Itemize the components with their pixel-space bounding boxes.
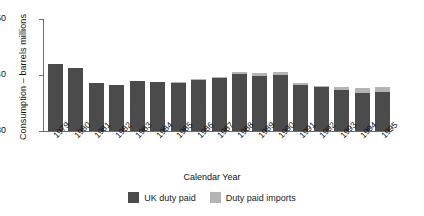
y-axis-title: Consumption – barrels millions — [18, 2, 28, 152]
bar-segment-uk-1980 — [68, 68, 83, 131]
legend-item-uk-duty-paid: UK duty paid — [128, 192, 196, 203]
chart-legend: UK duty paid Duty paid imports — [0, 192, 424, 203]
y-tick-label-30: 30 — [0, 125, 6, 135]
legend-item-duty-paid-imports: Duty paid imports — [210, 192, 296, 203]
bar-chart: Consumption – barrels millions 304050 19… — [0, 0, 424, 216]
y-tick-label-50: 50 — [0, 13, 6, 23]
legend-label-duty-paid-imports: Duty paid imports — [226, 193, 296, 203]
y-tick-label-40: 40 — [0, 69, 6, 79]
plot-area — [44, 19, 392, 131]
y-tick-30 — [39, 131, 44, 132]
legend-swatch-icon-duty-paid-imports — [210, 192, 221, 203]
x-axis-title: Calendar Year — [0, 172, 424, 182]
legend-label-uk-duty-paid: UK duty paid — [144, 193, 196, 203]
bar-segment-uk-1979 — [48, 64, 63, 131]
legend-swatch-icon-uk-duty-paid — [128, 192, 139, 203]
bar-series-container — [44, 19, 392, 131]
x-axis-tick-labels: 1979198019811982198319841985198619871988… — [44, 133, 392, 173]
bar-group-1980 — [68, 68, 83, 131]
bar-group-1979 — [48, 64, 63, 131]
